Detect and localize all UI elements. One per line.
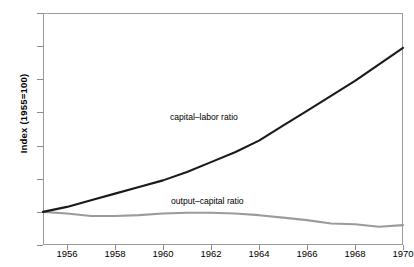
output-capital-ratio-label: output–capital ratio <box>171 196 244 206</box>
output-capital-ratio-line <box>43 212 403 227</box>
capital-labor-ratio-line <box>43 48 403 212</box>
capital-labor-ratio-label: capital–labor ratio <box>170 112 238 122</box>
